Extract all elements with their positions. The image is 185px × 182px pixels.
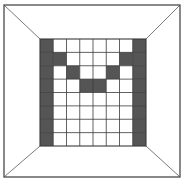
wall-cell-r6-c6 bbox=[106, 106, 119, 119]
wall-cell-r7-c1 bbox=[40, 119, 53, 132]
wall-cell-r1-c5 bbox=[93, 39, 106, 52]
wall-cell-r2-c4 bbox=[80, 52, 93, 65]
wall-cell-r8-c7 bbox=[120, 133, 133, 146]
wall-cell-r2-c1 bbox=[40, 52, 53, 65]
wall-cell-r5-c6 bbox=[106, 93, 119, 106]
wall-cell-r5-c4 bbox=[80, 93, 93, 106]
wall-cell-r3-c7 bbox=[120, 66, 133, 79]
wall-cell-r1-c6 bbox=[106, 39, 119, 52]
wall-cell-r6-c1 bbox=[40, 106, 53, 119]
wall-cell-r5-c8 bbox=[133, 93, 146, 106]
perspective-room-drawing bbox=[0, 0, 185, 182]
wall-cell-r6-c4 bbox=[80, 106, 93, 119]
wall-cell-r1-c7 bbox=[120, 39, 133, 52]
wall-cell-r2-c5 bbox=[93, 52, 106, 65]
wall-cell-r1-c1 bbox=[40, 39, 53, 52]
wall-cell-r6-c5 bbox=[93, 106, 106, 119]
wall-cell-r1-c2 bbox=[53, 39, 66, 52]
wall-cell-r6-c2 bbox=[53, 106, 66, 119]
wall-cell-r4-c1 bbox=[40, 79, 53, 92]
wall-cell-r5-c7 bbox=[120, 93, 133, 106]
wall-cell-r6-c8 bbox=[133, 106, 146, 119]
wall-cell-r1-c4 bbox=[80, 39, 93, 52]
wall-cell-r6-c3 bbox=[67, 106, 80, 119]
wall-cell-r2-c2 bbox=[53, 52, 66, 65]
wall-cell-r1-c8 bbox=[133, 39, 146, 52]
wall-cell-r4-c8 bbox=[133, 79, 146, 92]
wall-cell-r7-c8 bbox=[133, 119, 146, 132]
wall-cell-r8-c1 bbox=[40, 133, 53, 146]
wall-cell-r4-c4 bbox=[80, 79, 93, 92]
scene-canvas bbox=[0, 0, 185, 182]
wall-cell-r3-c4 bbox=[80, 66, 93, 79]
wall-cell-r3-c6 bbox=[106, 66, 119, 79]
wall-cell-r8-c3 bbox=[67, 133, 80, 146]
wall-cell-r8-c2 bbox=[53, 133, 66, 146]
wall-cell-r7-c5 bbox=[93, 119, 106, 132]
wall-cell-r2-c7 bbox=[120, 52, 133, 65]
wall-cell-r7-c4 bbox=[80, 119, 93, 132]
wall-cell-r5-c2 bbox=[53, 93, 66, 106]
wall-cell-r5-c5 bbox=[93, 93, 106, 106]
wall-cell-r4-c2 bbox=[53, 79, 66, 92]
wall-cell-r8-c6 bbox=[106, 133, 119, 146]
wall-cell-r6-c7 bbox=[120, 106, 133, 119]
wall-cell-r4-c6 bbox=[106, 79, 119, 92]
wall-cell-r4-c3 bbox=[67, 79, 80, 92]
wall-cell-r7-c6 bbox=[106, 119, 119, 132]
wall-cell-r3-c1 bbox=[40, 66, 53, 79]
wall-cell-r7-c2 bbox=[53, 119, 66, 132]
wall-cell-r7-c3 bbox=[67, 119, 80, 132]
wall-cell-r2-c8 bbox=[133, 52, 146, 65]
wall-cell-r5-c3 bbox=[67, 93, 80, 106]
wall-cell-r4-c7 bbox=[120, 79, 133, 92]
wall-cell-r2-c6 bbox=[106, 52, 119, 65]
wall-cell-r3-c8 bbox=[133, 66, 146, 79]
wall-cell-r1-c3 bbox=[67, 39, 80, 52]
wall-cell-r3-c2 bbox=[53, 66, 66, 79]
wall-cell-r4-c5 bbox=[93, 79, 106, 92]
wall-cell-r8-c5 bbox=[93, 133, 106, 146]
wall-cell-r3-c5 bbox=[93, 66, 106, 79]
wall-cell-r3-c3 bbox=[67, 66, 80, 79]
wall-cell-r8-c4 bbox=[80, 133, 93, 146]
wall-cell-r7-c7 bbox=[120, 119, 133, 132]
wall-cell-r5-c1 bbox=[40, 93, 53, 106]
wall-cell-r2-c3 bbox=[67, 52, 80, 65]
wall-cell-r8-c8 bbox=[133, 133, 146, 146]
